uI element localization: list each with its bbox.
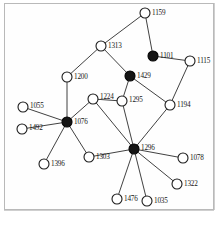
figure-canvas: 1159131311011115142912001224129511941055… bbox=[0, 0, 220, 225]
node-layer bbox=[17, 8, 195, 206]
graph-node-label-1429: 1429 bbox=[137, 72, 151, 80]
graph-node-1492[interactable] bbox=[17, 124, 27, 134]
graph-node-1313[interactable] bbox=[96, 41, 106, 51]
graph-edge bbox=[123, 106, 133, 144]
graph-node-label-1476: 1476 bbox=[124, 195, 138, 203]
graph-node-label-1115: 1115 bbox=[197, 57, 211, 65]
graph-edge bbox=[104, 50, 126, 73]
graph-node-1055[interactable] bbox=[18, 102, 28, 112]
graph-node-1396[interactable] bbox=[39, 159, 49, 169]
graph-node-1194[interactable] bbox=[165, 100, 175, 110]
graph-node-1322[interactable] bbox=[172, 179, 182, 189]
graph-edge bbox=[105, 16, 141, 43]
graph-edge bbox=[119, 154, 133, 195]
graph-edge bbox=[46, 126, 64, 159]
graph-node-label-1159: 1159 bbox=[152, 9, 166, 17]
graph-node-1159[interactable] bbox=[140, 8, 150, 18]
graph-edge bbox=[138, 152, 173, 181]
graph-edge bbox=[146, 18, 152, 51]
graph-node-label-1035: 1035 bbox=[154, 197, 168, 205]
graph-node-1429[interactable] bbox=[125, 71, 135, 81]
graph-edge bbox=[70, 126, 87, 153]
graph-edge bbox=[96, 103, 131, 145]
graph-node-label-1101: 1101 bbox=[160, 52, 174, 60]
graph-edge bbox=[172, 66, 188, 101]
graph-node-label-1396: 1396 bbox=[51, 160, 65, 168]
graph-edge bbox=[28, 109, 63, 121]
graph-node-label-1078: 1078 bbox=[190, 154, 204, 162]
graph-node-label-1194: 1194 bbox=[177, 101, 191, 109]
graph-node-label-1492: 1492 bbox=[29, 124, 43, 132]
graph-node-1476[interactable] bbox=[112, 194, 122, 204]
label-layer: 1159131311011115142912001224129511941055… bbox=[29, 9, 211, 205]
graph-node-1115[interactable] bbox=[185, 56, 195, 66]
graph-node-1295[interactable] bbox=[117, 96, 127, 106]
graph-node-label-1076: 1076 bbox=[74, 118, 88, 126]
graph-node-label-1322: 1322 bbox=[184, 180, 198, 188]
graph-node-1224[interactable] bbox=[88, 94, 98, 104]
graph-edge bbox=[135, 154, 146, 196]
graph-node-1200[interactable] bbox=[62, 72, 72, 82]
graph-node-label-1296: 1296 bbox=[141, 144, 155, 152]
graph-node-1303[interactable] bbox=[84, 152, 94, 162]
graph-node-1035[interactable] bbox=[142, 196, 152, 206]
graph-node-1076[interactable] bbox=[62, 117, 72, 127]
graph-edge bbox=[71, 49, 98, 73]
graph-node-1101[interactable] bbox=[148, 51, 158, 61]
graph-node-1078[interactable] bbox=[178, 153, 188, 163]
graph-node-label-1303: 1303 bbox=[96, 153, 110, 161]
graph-node-label-1055: 1055 bbox=[30, 102, 44, 110]
graph-node-label-1224: 1224 bbox=[100, 93, 114, 101]
graph-node-1296[interactable] bbox=[129, 144, 139, 154]
graph-edge bbox=[124, 81, 129, 96]
graph-node-label-1295: 1295 bbox=[129, 96, 143, 104]
graph-edge bbox=[137, 109, 167, 145]
graph-node-label-1200: 1200 bbox=[74, 73, 88, 81]
network-graph: 1159131311011115142912001224129511941055… bbox=[0, 0, 220, 225]
graph-edge bbox=[71, 102, 90, 118]
graph-node-label-1313: 1313 bbox=[108, 42, 122, 50]
